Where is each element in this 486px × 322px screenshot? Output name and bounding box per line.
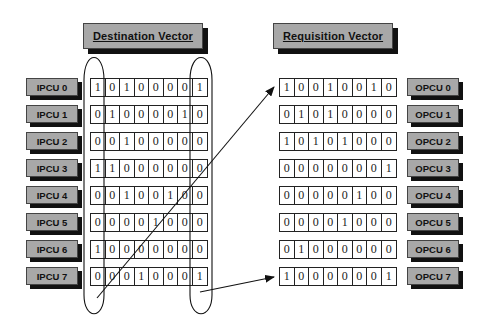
bit-cell: 0 [149, 106, 164, 123]
bit-cell: 1 [193, 268, 208, 285]
bit-cell: 1 [178, 106, 193, 123]
destination-vector-header: Destination Vector [83, 23, 203, 49]
ipcu-label-5: IPCU 5 [26, 213, 78, 231]
bit-cell: 1 [295, 106, 310, 123]
bit-cell: 1 [106, 106, 121, 123]
bit-cell: 0 [149, 268, 164, 285]
destination-row-4: 00100100 [90, 186, 208, 205]
destination-row-7: 00010001 [90, 267, 208, 286]
bit-cell: 0 [178, 241, 193, 258]
bit-cell: 0 [338, 79, 353, 96]
bit-cell: 0 [324, 133, 339, 150]
bit-cell: 0 [353, 106, 368, 123]
bit-cell: 0 [309, 241, 324, 258]
bit-cell: 0 [367, 241, 382, 258]
bit-cell: 1 [135, 268, 150, 285]
bit-cell: 0 [295, 160, 310, 177]
bit-cell: 0 [382, 106, 397, 123]
requisition-row-1: 01010000 [279, 105, 397, 124]
bit-cell: 0 [324, 160, 339, 177]
bit-cell: 0 [106, 214, 121, 231]
arrow-column7-to-opcu7 [200, 277, 274, 292]
bit-cell: 1 [382, 268, 397, 285]
destination-row-6: 10000000 [90, 240, 208, 259]
destination-row-2: 00100000 [90, 132, 208, 151]
opcu-label-6: OPCU 6 [407, 240, 459, 258]
bit-cell: 0 [367, 106, 382, 123]
requisition-row-0: 10010010 [279, 78, 397, 97]
bit-cell: 1 [338, 133, 353, 150]
bit-cell: 0 [382, 214, 397, 231]
bit-cell: 1 [280, 133, 295, 150]
bit-cell: 1 [353, 187, 368, 204]
requisition-vector-header: Requisition Vector [273, 23, 393, 49]
bit-cell: 0 [338, 106, 353, 123]
opcu-label-5: OPCU 5 [407, 213, 459, 231]
opcu-label-1: OPCU 1 [407, 105, 459, 123]
bit-cell: 0 [91, 214, 106, 231]
bit-cell: 0 [120, 160, 135, 177]
bit-cell: 1 [120, 187, 135, 204]
bit-cell: 0 [309, 187, 324, 204]
bit-cell: 0 [367, 187, 382, 204]
bit-cell: 0 [193, 214, 208, 231]
bit-cell: 0 [280, 214, 295, 231]
bit-cell: 0 [120, 106, 135, 123]
bit-cell: 0 [193, 241, 208, 258]
destination-vector-title: Destination Vector [93, 30, 193, 42]
bit-cell: 0 [164, 133, 179, 150]
ipcu-label-3: IPCU 3 [26, 159, 78, 177]
destination-row-5: 00001000 [90, 213, 208, 232]
bit-cell: 0 [106, 268, 121, 285]
ipcu-label-1: IPCU 1 [26, 105, 78, 123]
bit-cell: 0 [353, 268, 368, 285]
ipcu-label-2: IPCU 2 [26, 132, 78, 150]
bit-cell: 0 [164, 160, 179, 177]
bit-cell: 1 [382, 160, 397, 177]
destination-row-0: 10100001 [90, 78, 208, 97]
opcu-label-3: OPCU 3 [407, 159, 459, 177]
bit-cell: 0 [382, 133, 397, 150]
bit-cell: 0 [164, 241, 179, 258]
bit-cell: 0 [353, 214, 368, 231]
bit-cell: 1 [280, 79, 295, 96]
ipcu-label-4: IPCU 4 [26, 186, 78, 204]
bit-cell: 0 [178, 187, 193, 204]
bit-cell: 0 [106, 241, 121, 258]
bit-cell: 1 [120, 133, 135, 150]
bit-cell: 0 [338, 160, 353, 177]
bit-cell: 0 [135, 241, 150, 258]
bit-cell: 0 [367, 268, 382, 285]
bit-cell: 0 [367, 214, 382, 231]
bit-cell: 0 [91, 268, 106, 285]
bit-cell: 1 [149, 214, 164, 231]
bit-cell: 0 [149, 79, 164, 96]
bit-cell: 0 [164, 268, 179, 285]
bit-cell: 0 [106, 187, 121, 204]
bit-cell: 0 [91, 106, 106, 123]
bit-cell: 0 [120, 214, 135, 231]
bit-cell: 0 [324, 268, 339, 285]
bit-cell: 0 [135, 187, 150, 204]
destination-row-1: 01000010 [90, 105, 208, 124]
bit-cell: 0 [338, 268, 353, 285]
bit-cell: 0 [164, 214, 179, 231]
bit-cell: 1 [106, 160, 121, 177]
opcu-label-0: OPCU 0 [407, 78, 459, 96]
bit-cell: 0 [164, 79, 179, 96]
bit-cell: 0 [382, 187, 397, 204]
bit-cell: 0 [295, 187, 310, 204]
opcu-label-2: OPCU 2 [407, 132, 459, 150]
bit-cell: 0 [367, 160, 382, 177]
bit-cell: 0 [280, 187, 295, 204]
bit-cell: 0 [382, 79, 397, 96]
ipcu-label-0: IPCU 0 [26, 78, 78, 96]
destination-row-3: 11000000 [90, 159, 208, 178]
bit-cell: 0 [149, 133, 164, 150]
bit-cell: 0 [295, 268, 310, 285]
bit-cell: 1 [324, 106, 339, 123]
requisition-vector-title: Requisition Vector [283, 30, 383, 42]
bit-cell: 0 [135, 160, 150, 177]
bit-cell: 1 [120, 79, 135, 96]
requisition-row-4: 00000100 [279, 186, 397, 205]
